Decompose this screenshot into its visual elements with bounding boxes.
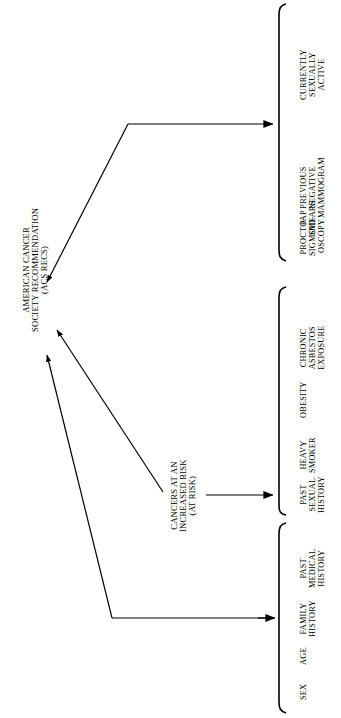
- leaf-chronic-asbestos-exposure: CHRONIC ASBESTOS EXPOSURE: [300, 326, 326, 370]
- brace-screening-tests: [279, 4, 286, 261]
- leaf-heavy-smoker: HEAVY SMOKER: [300, 437, 318, 473]
- leaf-line: HISTORY: [309, 600, 318, 637]
- leaf-family-history: FAMILY HISTORY: [300, 600, 318, 637]
- leaf-past-medical-history: PAST MEDICAL HISTORY: [300, 549, 326, 588]
- leaf-proctosigmoidoscopy: PROCTO- SIGMOID- OSCOPY: [300, 216, 326, 256]
- leaf-line: OBESITY: [300, 382, 309, 418]
- leaf-age: AGE: [300, 647, 309, 665]
- leaf-line: OSCOPY: [318, 216, 327, 256]
- leaf-sex: SEX: [300, 684, 309, 700]
- leaf-line: HISTORY: [318, 476, 327, 513]
- node-at-risk: CANCERS AT AN INCREASED RISK (AT RISK): [170, 459, 197, 532]
- leaf-line: AGE: [300, 647, 309, 665]
- node-acs-recs: AMERICAN CANCER SOCIETY RECOMMENDATION (…: [22, 208, 49, 332]
- connector-acs-to-screening-diagonal: [47, 124, 128, 282]
- leaf-obesity: OBESITY: [300, 382, 309, 418]
- connector-layer: [0, 0, 341, 718]
- leaf-line: ACTIVE: [318, 49, 327, 100]
- connector-attributes-to-acs-diagonal: [47, 355, 112, 618]
- leaf-line: MAMMOGRAM: [318, 157, 327, 218]
- leaf-line: HISTORY: [318, 549, 327, 588]
- brace-risk-factors: [279, 287, 286, 515]
- leaf-line: EXPOSURE: [318, 326, 327, 370]
- connector-atrisk-to-acs: [57, 330, 163, 492]
- leaf-line: SEX: [300, 684, 309, 700]
- leaf-currently-sexually-active: CURRENTLY SEXUALLY ACTIVE: [300, 49, 326, 100]
- leaf-past-sexual-history: PAST SEXUAL HISTORY: [300, 476, 326, 513]
- node-at-risk-line-3: (AT RISK): [188, 459, 197, 532]
- diagram-canvas: AMERICAN CANCER SOCIETY RECOMMENDATION (…: [0, 0, 341, 718]
- node-acs-recs-line-3: (ACS RECS): [40, 208, 49, 332]
- leaf-line: SMOKER: [309, 437, 318, 473]
- brace-patient-attributes: [279, 523, 286, 713]
